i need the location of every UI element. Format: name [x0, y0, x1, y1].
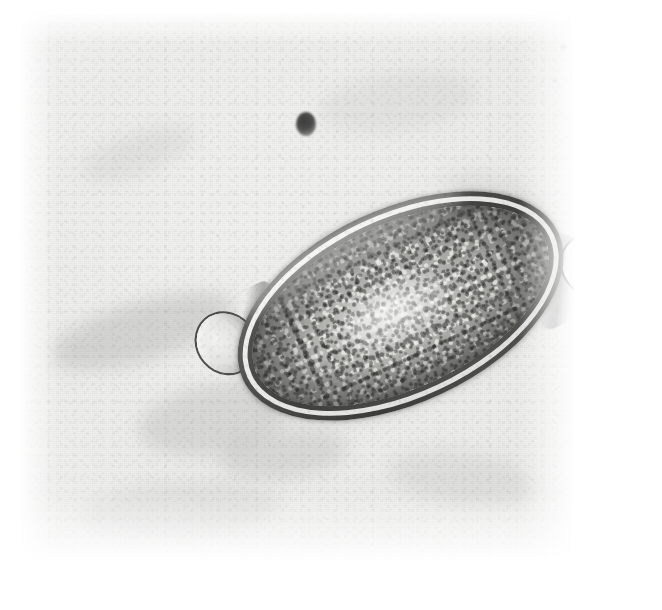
whipworm-egg	[183, 117, 574, 489]
background-smudge	[385, 442, 541, 516]
microscope-field	[18, 12, 574, 560]
background-smudge	[76, 475, 280, 549]
background-smudge	[74, 113, 201, 194]
micrograph-canvas	[0, 0, 662, 610]
background-smudge	[315, 61, 482, 143]
debris-speckle-cluster	[546, 26, 574, 96]
debris-particle	[296, 112, 316, 136]
